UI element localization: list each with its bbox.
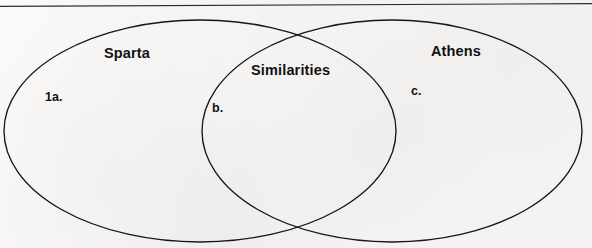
venn-diagram-graphic [0, 0, 592, 248]
athens-region-marker: c. [411, 85, 422, 98]
sparta-ellipse [4, 20, 396, 242]
venn-diagram-worksheet: Sparta Similarities Athens 1a. b. c. [0, 0, 592, 248]
similarities-overlap-label: Similarities [251, 63, 330, 78]
athens-ellipse [202, 20, 582, 242]
similarities-region-marker: b. [212, 102, 223, 115]
sparta-set-label: Sparta [104, 46, 150, 61]
sparta-region-marker: 1a. [45, 91, 63, 104]
athens-set-label: Athens [431, 44, 481, 59]
page-rule-line [0, 4, 592, 7]
